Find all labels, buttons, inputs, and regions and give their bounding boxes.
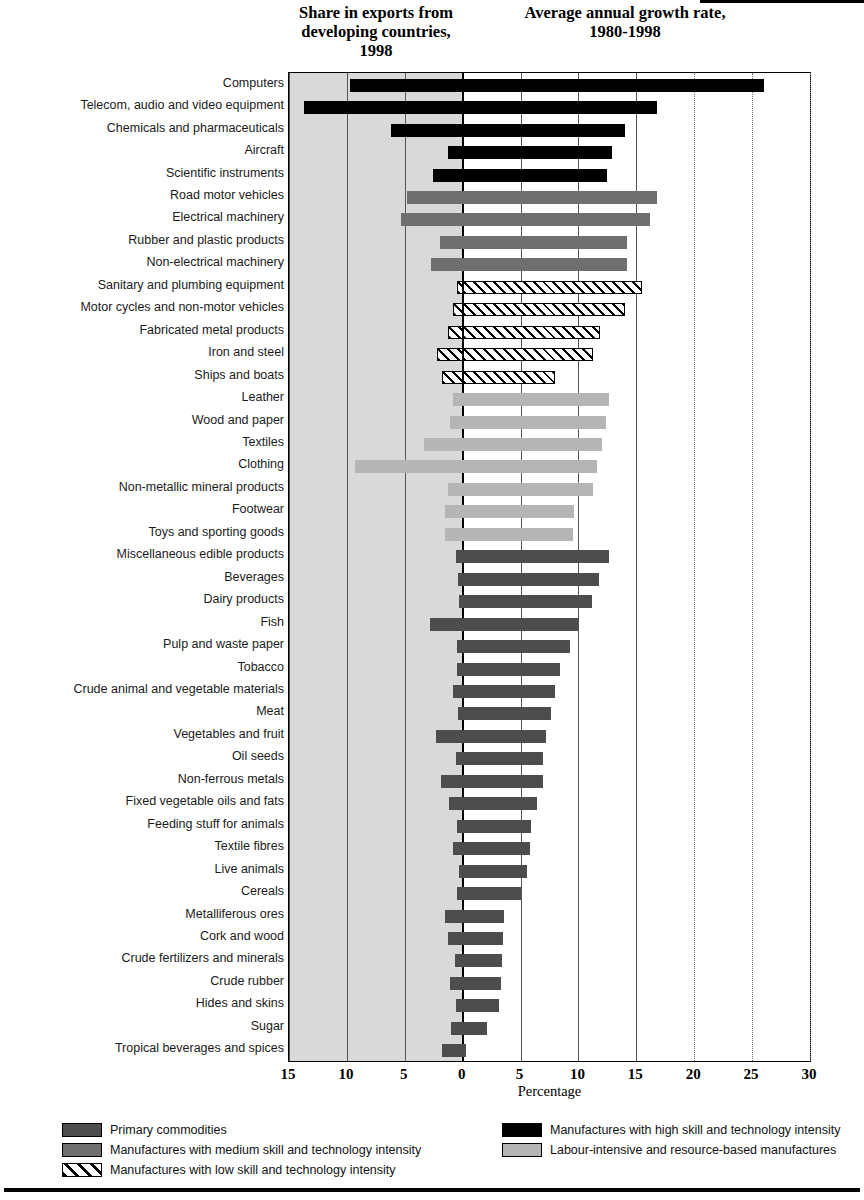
bar-share bbox=[448, 932, 463, 945]
bar-share bbox=[448, 483, 463, 496]
header-left-line2: developing countries, bbox=[301, 22, 450, 41]
bar-growth bbox=[463, 1044, 466, 1057]
bar-share bbox=[431, 258, 462, 271]
x-axis-tick: 5 bbox=[500, 1066, 540, 1083]
bar-growth bbox=[463, 1022, 487, 1035]
header-right-title: Average annual growth rate, 1980-1998 bbox=[470, 3, 780, 41]
chart-legend: Primary commoditiesManufactures with hig… bbox=[62, 1122, 857, 1182]
y-axis-label: Miscellaneous edible products bbox=[0, 548, 284, 561]
header-left-line1: Share in exports from bbox=[299, 3, 453, 22]
bar-growth bbox=[463, 505, 574, 518]
bar-growth bbox=[463, 685, 556, 698]
bar-growth bbox=[463, 977, 501, 990]
plot-area bbox=[288, 72, 811, 1062]
bar-share bbox=[455, 954, 463, 967]
bar-growth bbox=[463, 258, 627, 271]
y-axis-label: Fabricated metal products bbox=[0, 324, 284, 337]
bar-growth bbox=[463, 191, 658, 204]
x-axis-tick: 5 bbox=[384, 1066, 424, 1083]
bar-share bbox=[442, 1044, 463, 1057]
bar-share bbox=[453, 685, 462, 698]
bar-growth bbox=[463, 618, 579, 631]
y-axis-label: Tropical beverages and spices bbox=[0, 1042, 284, 1055]
x-axis-tick: 0 bbox=[442, 1066, 482, 1083]
x-axis-tick: 20 bbox=[673, 1066, 713, 1083]
bar-share bbox=[436, 730, 463, 743]
bar-share bbox=[445, 505, 462, 518]
bar-share bbox=[424, 438, 462, 451]
y-axis-label: Meat bbox=[0, 705, 284, 718]
header-left-line3: 1998 bbox=[360, 41, 393, 60]
legend-swatch-medium bbox=[62, 1143, 102, 1157]
bar-growth bbox=[463, 528, 573, 541]
bar-growth bbox=[463, 707, 551, 720]
bar-growth bbox=[463, 348, 594, 361]
y-axis-label: Cork and wood bbox=[0, 930, 284, 943]
bar-growth bbox=[463, 236, 627, 249]
bar-growth bbox=[463, 595, 593, 608]
bar-growth bbox=[463, 663, 560, 676]
legend-label-primary: Primary commodities bbox=[110, 1122, 227, 1138]
bar-growth bbox=[463, 932, 504, 945]
y-axis-label: Computers bbox=[0, 77, 284, 90]
y-axis-label: Iron and steel bbox=[0, 346, 284, 359]
x-axis-tick: 10 bbox=[326, 1066, 366, 1083]
x-axis-tick: 15 bbox=[268, 1066, 308, 1083]
bar-share bbox=[451, 1022, 463, 1035]
bar-growth bbox=[463, 999, 499, 1012]
y-axis-label: Electrical machinery bbox=[0, 211, 284, 224]
bar-share bbox=[401, 213, 462, 226]
chart-header: Share in exports from developing countri… bbox=[0, 0, 864, 68]
bar-growth bbox=[463, 865, 528, 878]
bar-growth bbox=[463, 416, 607, 429]
y-axis-label: Fixed vegetable oils and fats bbox=[0, 795, 284, 808]
y-axis-label: Live animals bbox=[0, 863, 284, 876]
bar-growth bbox=[463, 79, 764, 92]
y-axis-label: Crude rubber bbox=[0, 975, 284, 988]
bar-growth bbox=[463, 797, 537, 810]
x-axis-tick: 10 bbox=[557, 1066, 597, 1083]
bar-growth bbox=[463, 842, 530, 855]
y-axis-label: Crude fertilizers and minerals bbox=[0, 952, 284, 965]
bar-share bbox=[450, 977, 463, 990]
bar-growth bbox=[463, 483, 594, 496]
y-axis-label: Feeding stuff for animals bbox=[0, 818, 284, 831]
bar-growth bbox=[463, 730, 546, 743]
bar-share bbox=[448, 326, 463, 339]
y-axis-label: Pulp and waste paper bbox=[0, 638, 284, 651]
legend-label-medium: Manufactures with medium skill and techn… bbox=[110, 1142, 421, 1158]
bar-share bbox=[430, 618, 462, 631]
bar-growth bbox=[463, 460, 597, 473]
bar-share bbox=[456, 752, 463, 765]
bar-share bbox=[391, 124, 463, 137]
bar-share bbox=[456, 550, 463, 563]
y-axis-label: Toys and sporting goods bbox=[0, 526, 284, 539]
bar-share bbox=[407, 191, 463, 204]
bar-growth bbox=[463, 101, 658, 114]
bar-share bbox=[453, 842, 462, 855]
legend-swatch-labour bbox=[502, 1143, 542, 1157]
bar-growth bbox=[463, 438, 602, 451]
bar-share bbox=[456, 999, 463, 1012]
bar-growth bbox=[463, 169, 608, 182]
bar-growth bbox=[463, 303, 625, 316]
bar-growth bbox=[463, 573, 600, 586]
bar-share bbox=[441, 775, 463, 788]
bar-share bbox=[450, 416, 463, 429]
y-axis-label: Textile fibres bbox=[0, 840, 284, 853]
y-axis-label: Fish bbox=[0, 616, 284, 629]
legend-swatch-low bbox=[62, 1163, 102, 1177]
y-axis-label: Telecom, audio and video equipment bbox=[0, 99, 284, 112]
x-axis-title: Percentage bbox=[288, 1083, 811, 1100]
y-axis-label: Scientific instruments bbox=[0, 167, 284, 180]
bar-share bbox=[433, 169, 463, 182]
y-axis-label: Clothing bbox=[0, 458, 284, 471]
y-axis-label: Beverages bbox=[0, 571, 284, 584]
y-axis-label: Oil seeds bbox=[0, 750, 284, 763]
bar-growth bbox=[463, 124, 625, 137]
bar-growth bbox=[463, 775, 543, 788]
y-axis-label: Crude animal and vegetable materials bbox=[0, 683, 284, 696]
bar-growth bbox=[463, 820, 531, 833]
legend-swatch-primary bbox=[62, 1123, 102, 1137]
bar-share bbox=[453, 303, 462, 316]
